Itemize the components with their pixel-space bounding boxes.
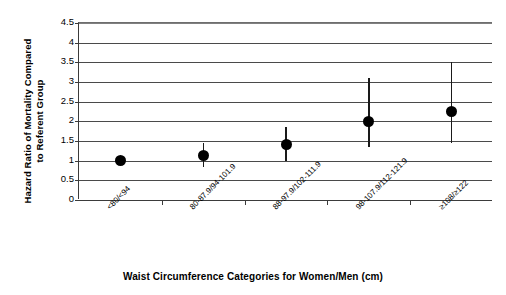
y-tick-label: 4.5: [44, 17, 74, 27]
error-bar: [368, 78, 369, 147]
gridline: [79, 180, 492, 181]
y-tick-label: 2: [44, 115, 74, 125]
y-tick-label: 3: [44, 76, 74, 86]
gridline: [79, 43, 492, 44]
hazard-ratio-chart: Hazard Ratio of Mortality Compared to Re…: [0, 0, 506, 295]
y-axis-tick-labels: 00.511.522.533.544.5: [44, 22, 74, 199]
gridline: [79, 62, 492, 63]
gridline: [79, 23, 492, 24]
gridline: [79, 82, 492, 83]
x-axis-tick-labels: <80/<9480-87.9/94-101.988-97.9/102-111.9…: [78, 199, 492, 261]
y-tick-label: 1.5: [44, 135, 74, 145]
y-tick-label: 0: [44, 194, 74, 204]
data-point-marker: [363, 116, 374, 127]
y-tick-mark: [75, 82, 79, 83]
data-point-marker: [115, 155, 126, 166]
y-tick-label: 3.5: [44, 56, 74, 66]
x-axis-title: Waist Circumference Categories for Women…: [0, 271, 506, 282]
y-tick-mark: [75, 102, 79, 103]
y-tick-mark: [75, 180, 79, 181]
y-tick-label: 0.5: [44, 174, 74, 184]
y-tick-mark: [75, 121, 79, 122]
y-tick-mark: [75, 43, 79, 44]
plot-area: [78, 22, 492, 199]
y-tick-mark: [75, 141, 79, 142]
data-point-marker: [446, 106, 457, 117]
y-tick-label: 1: [44, 155, 74, 165]
gridline: [79, 102, 492, 103]
y-tick-mark: [75, 23, 79, 24]
y-tick-label: 2.5: [44, 96, 74, 106]
gridline: [79, 121, 492, 122]
gridline: [79, 161, 492, 162]
error-bar: [451, 62, 452, 143]
y-tick-label: 4: [44, 37, 74, 47]
data-point-marker: [198, 150, 209, 161]
data-point-marker: [281, 139, 292, 150]
y-tick-mark: [75, 62, 79, 63]
y-tick-mark: [75, 161, 79, 162]
